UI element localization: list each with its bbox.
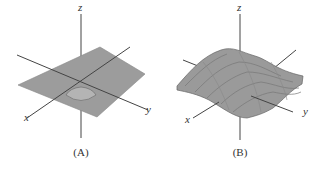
- panel-a: z x y (A): [0, 0, 163, 169]
- caption-a: (A): [61, 147, 101, 158]
- surface-plot-a: [0, 0, 163, 169]
- surface-plot-b: [163, 0, 326, 169]
- caption-b: (B): [220, 147, 260, 158]
- z-axis-label-b: z: [237, 2, 241, 13]
- panel-b: z x y (B): [163, 0, 326, 169]
- y-axis-label-a: y: [146, 104, 151, 115]
- x-axis-label-a: x: [24, 112, 29, 123]
- x-axis-label-b: x: [185, 114, 190, 125]
- z-axis-label-a: z: [78, 2, 82, 13]
- y-axis-label-b: y: [303, 106, 308, 117]
